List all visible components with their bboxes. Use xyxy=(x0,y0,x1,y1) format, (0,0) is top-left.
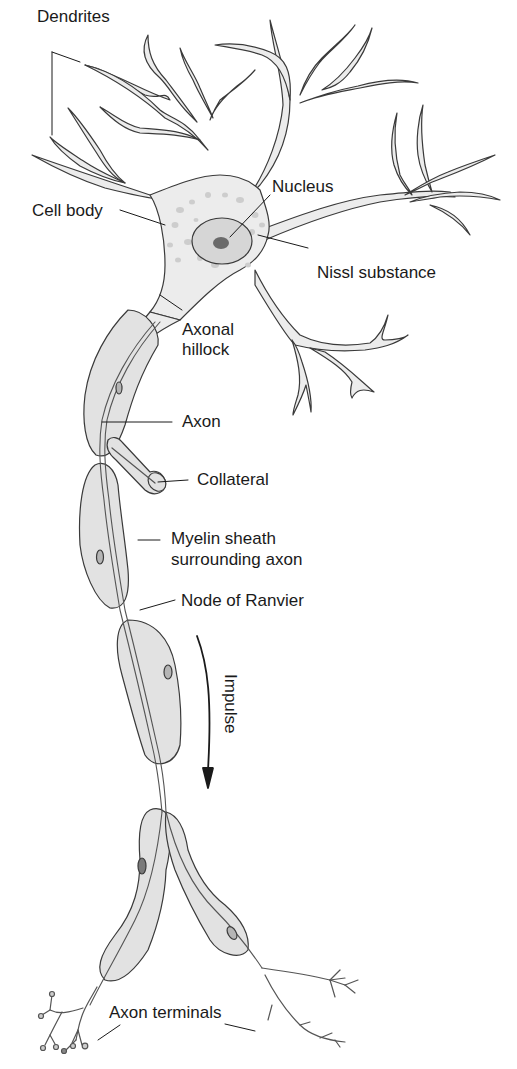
label-impulse: Impulse xyxy=(220,674,240,734)
label-axon-terminals: Axon terminals xyxy=(109,1003,221,1023)
axon-terminals-right xyxy=(262,968,358,1047)
label-axonal-hillock-line1: Axonal xyxy=(182,320,234,340)
label-axonal-hillock-line2: hillock xyxy=(182,340,229,360)
nucleolus-shape xyxy=(213,237,229,249)
axon-terminals-left xyxy=(39,987,98,1054)
label-axon: Axon xyxy=(182,412,221,432)
dendrites-lower-right xyxy=(255,270,408,415)
dendrites-upper-right xyxy=(215,20,418,195)
label-nissl-substance: Nissl substance xyxy=(317,263,436,283)
label-node-of-ranvier: Node of Ranvier xyxy=(181,591,304,611)
dendrites-right xyxy=(260,105,500,240)
label-myelin-sheath-line1: Myelin sheath xyxy=(171,529,276,549)
label-cell-body: Cell body xyxy=(32,201,103,221)
label-nucleus: Nucleus xyxy=(272,177,333,197)
label-dendrites: Dendrites xyxy=(37,7,110,27)
label-collateral: Collateral xyxy=(197,470,269,490)
impulse-arrow-icon xyxy=(197,636,213,788)
label-myelin-sheath-line2: surrounding axon xyxy=(171,550,302,570)
